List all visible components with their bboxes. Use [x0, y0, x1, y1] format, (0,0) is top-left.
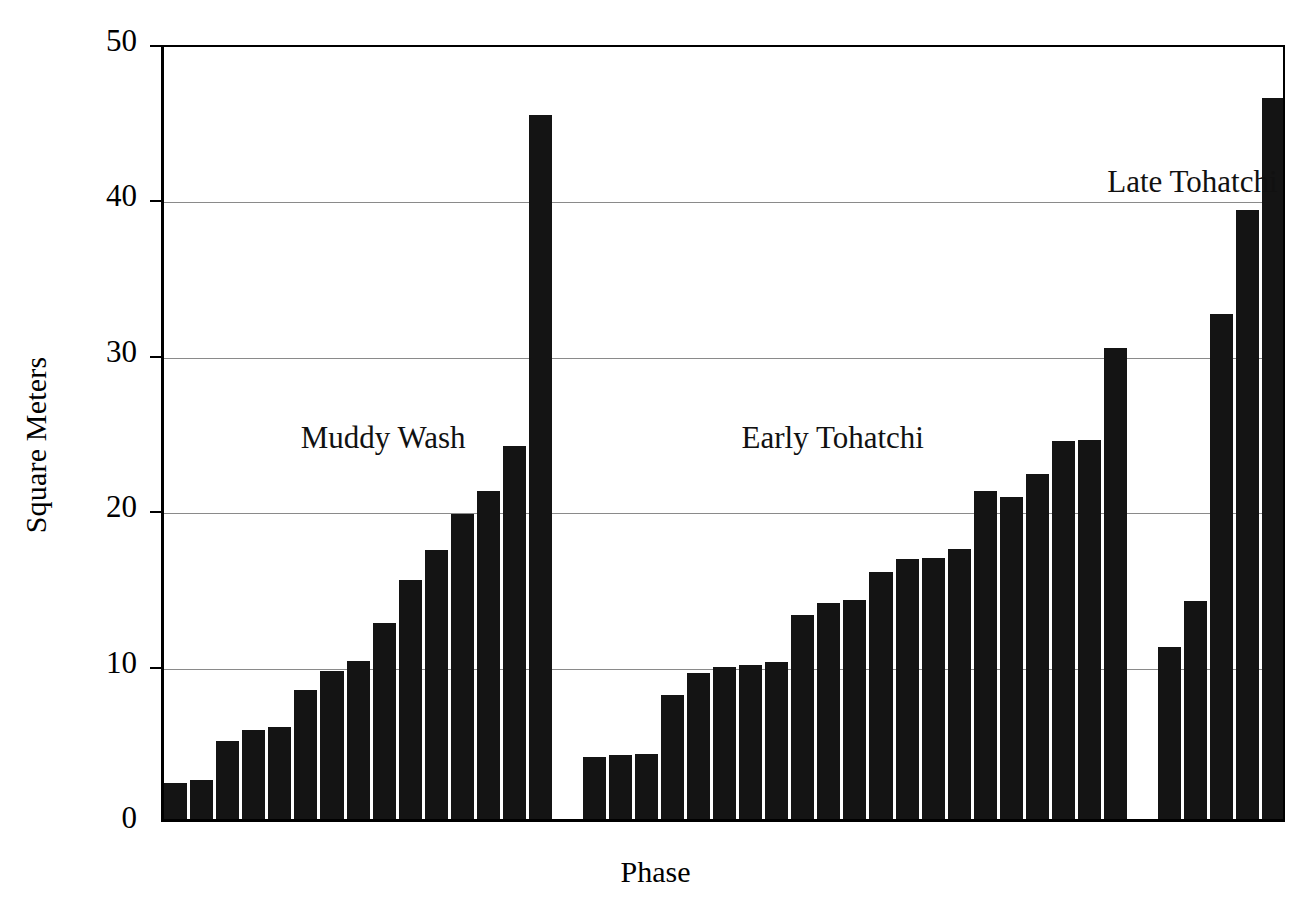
- bar: [869, 572, 892, 819]
- y-tick-mark-40: [150, 200, 161, 202]
- bar: [451, 514, 474, 819]
- bar: [609, 755, 632, 819]
- bar: [739, 665, 762, 819]
- annotation-muddy-wash: Muddy Wash: [301, 420, 466, 456]
- bar: [320, 671, 343, 819]
- bar: [399, 580, 422, 819]
- bar: [503, 446, 526, 819]
- bar: [922, 558, 945, 819]
- bar: [1078, 440, 1101, 819]
- bar: [373, 623, 396, 819]
- y-tick-label-40: 40: [17, 180, 137, 211]
- bar: [190, 780, 213, 819]
- y-tick-label-50: 50: [17, 25, 137, 56]
- bar-chart-figure: Square Meters 01020304050 Muddy WashEarl…: [0, 0, 1311, 924]
- y-tick-mark-30: [150, 356, 161, 358]
- bar: [242, 730, 265, 819]
- bar: [529, 115, 552, 819]
- bar: [948, 549, 971, 819]
- bar: [294, 690, 317, 819]
- bar: [896, 559, 919, 819]
- bar: [687, 673, 710, 819]
- annotation-early-tohatchi: Early Tohatchi: [742, 420, 924, 456]
- y-tick-label-20: 20: [17, 491, 137, 522]
- bar: [1184, 601, 1207, 819]
- plot-area: Muddy WashEarly TohatchiLate Tohatchi: [161, 45, 1285, 822]
- bar: [1210, 314, 1233, 819]
- bar: [661, 695, 684, 819]
- bar: [635, 754, 658, 819]
- y-tick-label-0: 0: [17, 802, 137, 833]
- bar: [268, 727, 291, 819]
- bar: [347, 661, 370, 820]
- bar: [1052, 441, 1075, 819]
- y-tick-mark-50: [150, 45, 161, 47]
- bar: [974, 491, 997, 819]
- bar: [1158, 647, 1181, 819]
- bar: [713, 667, 736, 819]
- bar: [791, 615, 814, 819]
- bar: [817, 603, 840, 819]
- y-tick-mark-10: [150, 667, 161, 669]
- y-tick-mark-20: [150, 511, 161, 513]
- annotation-late-tohatchi: Late Tohatchi: [1107, 164, 1277, 200]
- bar: [216, 741, 239, 819]
- bar: [583, 757, 606, 819]
- bar: [1104, 348, 1127, 819]
- bar: [425, 550, 448, 819]
- bar: [477, 491, 500, 819]
- bar: [1000, 497, 1023, 819]
- bar: [1026, 474, 1049, 819]
- y-tick-label-30: 30: [17, 336, 137, 367]
- gridline-40: [164, 202, 1283, 203]
- bar: [765, 662, 788, 819]
- y-tick-label-10: 10: [17, 647, 137, 678]
- bar: [164, 783, 187, 819]
- bar: [843, 600, 866, 819]
- x-axis-label: Phase: [0, 855, 1311, 889]
- bar: [1236, 210, 1259, 819]
- bar: [1262, 98, 1285, 819]
